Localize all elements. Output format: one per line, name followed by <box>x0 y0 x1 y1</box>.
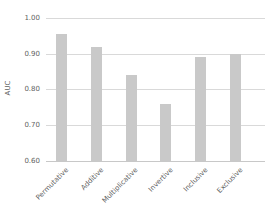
x-tick-label: Multiplicative <box>101 166 140 205</box>
bar-invertive <box>160 104 171 161</box>
gridline <box>46 18 265 19</box>
y-tick-label: 0.90 <box>24 50 40 58</box>
bar-permutative <box>56 34 67 161</box>
bar-inclusive <box>195 57 206 161</box>
x-tick-label: Additive <box>79 166 105 192</box>
bar-exclusive <box>230 54 241 161</box>
bar-chart: AUC 0.600.700.800.901.00PermutativeAddit… <box>0 0 273 216</box>
y-axis-label: AUC <box>4 81 12 96</box>
y-tick-label: 0.60 <box>24 157 40 165</box>
y-tick-label: 0.70 <box>24 121 40 129</box>
x-tick-label: Invertive <box>147 166 175 194</box>
x-tick-label: Inclusive <box>182 166 209 193</box>
x-tick-label: Exclusive <box>215 166 244 195</box>
x-tick-label: Permutative <box>34 166 70 202</box>
y-tick-label: 1.00 <box>24 14 40 22</box>
y-tick-label: 0.80 <box>24 85 40 93</box>
x-axis-line <box>46 161 265 162</box>
bar-multiplicative <box>126 75 137 161</box>
bar-additive <box>91 47 102 161</box>
